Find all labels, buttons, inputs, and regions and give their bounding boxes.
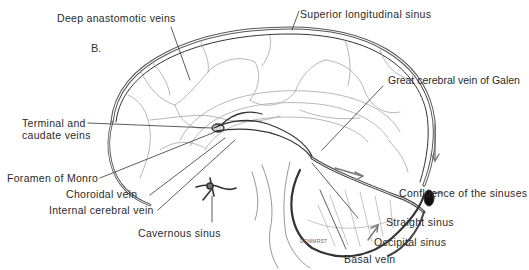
label-occipital-sinus: Occipital sinus <box>374 236 446 248</box>
label-terminal-caudate-veins-line1: Terminal and <box>22 117 86 129</box>
superior-longitudinal-sinus <box>112 28 434 185</box>
label-deep-anastomotic-veins: Deep anastomotic veins <box>57 12 176 24</box>
panel-label: B. <box>91 42 101 54</box>
artist-signature: DOMMRST <box>300 238 327 244</box>
label-choroidal-vein: Choroidal vein <box>66 188 137 200</box>
label-terminal-caudate-veins-line2: caudate veins <box>22 129 91 141</box>
label-cavernous-sinus: Cavernous sinus <box>138 227 221 239</box>
label-internal-cerebral-vein: Internal cerebral vein <box>49 204 154 216</box>
label-great-cerebral-vein: Great cerebral vein of Galen <box>388 74 520 86</box>
label-foramen-of-monro: Foramen of Monro <box>7 172 98 184</box>
cerebral-veins-diagram: B. Deep anastomotic veins Superior longi… <box>0 0 529 270</box>
label-superior-longitudinal-sinus: Superior longitudinal sinus <box>300 8 431 20</box>
label-basal-vein: Basal vein <box>344 253 395 265</box>
label-confluence-of-sinuses: Confluence of the sinuses <box>399 187 527 199</box>
label-straight-sinus: Straight sinus <box>386 216 454 228</box>
